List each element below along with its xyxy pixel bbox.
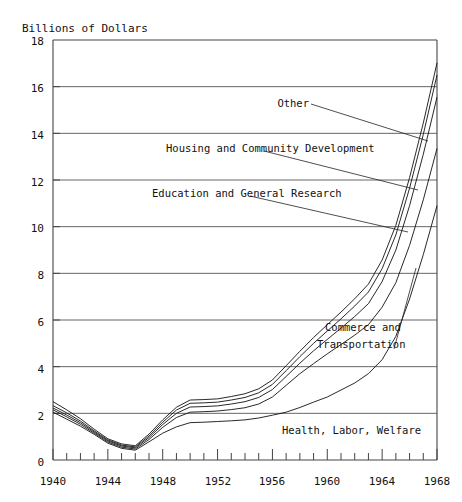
gridlines bbox=[53, 87, 437, 414]
annotation-other: Other bbox=[277, 97, 309, 109]
chart-title: Billions of Dollars bbox=[22, 22, 148, 35]
y-tick-label: 6 bbox=[37, 316, 44, 329]
y-tick-label: 16 bbox=[31, 82, 44, 95]
x-tick-label: 1944 bbox=[95, 475, 122, 488]
series-line-4 bbox=[53, 63, 437, 446]
x-tick-label: 1960 bbox=[314, 475, 341, 488]
x-tick-label: 1948 bbox=[150, 475, 177, 488]
chart-container: Billions of Dollars 18 16 14 12 10 8 6 4… bbox=[0, 0, 462, 502]
y-tick-label: 4 bbox=[37, 363, 44, 376]
y-tick-label: 10 bbox=[31, 222, 44, 235]
x-tick-marks bbox=[53, 449, 437, 460]
annotation-housing: Housing and Community Development bbox=[166, 142, 375, 154]
y-tick-label: 0 bbox=[37, 456, 44, 469]
series-lines bbox=[53, 63, 437, 450]
annotation-commerce-line2: Transportation bbox=[317, 338, 406, 350]
series-line-3 bbox=[53, 75, 437, 447]
y-tick-label: 14 bbox=[31, 129, 45, 142]
y-tick-label: 8 bbox=[37, 269, 44, 282]
x-tick-label: 1940 bbox=[40, 475, 67, 488]
annotation-education: Education and General Research bbox=[152, 187, 342, 199]
y-tick-marks bbox=[53, 87, 60, 414]
x-tick-label: 1968 bbox=[424, 475, 451, 488]
line-chart-svg: Billions of Dollars 18 16 14 12 10 8 6 4… bbox=[0, 0, 462, 502]
annotation-commerce-line1: Commerce and bbox=[325, 321, 401, 333]
annotation-health: Health, Labor, Welfare bbox=[282, 424, 421, 436]
leader-line-other bbox=[311, 104, 428, 141]
x-axis-labels: 1940 1944 1948 1952 1956 1960 1964 1968 bbox=[40, 475, 451, 488]
y-axis-labels: 18 16 14 12 10 8 6 4 2 0 bbox=[31, 35, 45, 469]
y-tick-label: 2 bbox=[37, 410, 44, 423]
x-tick-label: 1964 bbox=[369, 475, 396, 488]
leader-line-housing bbox=[264, 151, 418, 190]
y-tick-label: 18 bbox=[31, 35, 44, 48]
leader-line-commerce bbox=[394, 268, 416, 349]
x-tick-label: 1956 bbox=[259, 475, 286, 488]
y-tick-label: 12 bbox=[31, 176, 44, 189]
x-tick-label: 1952 bbox=[205, 475, 232, 488]
